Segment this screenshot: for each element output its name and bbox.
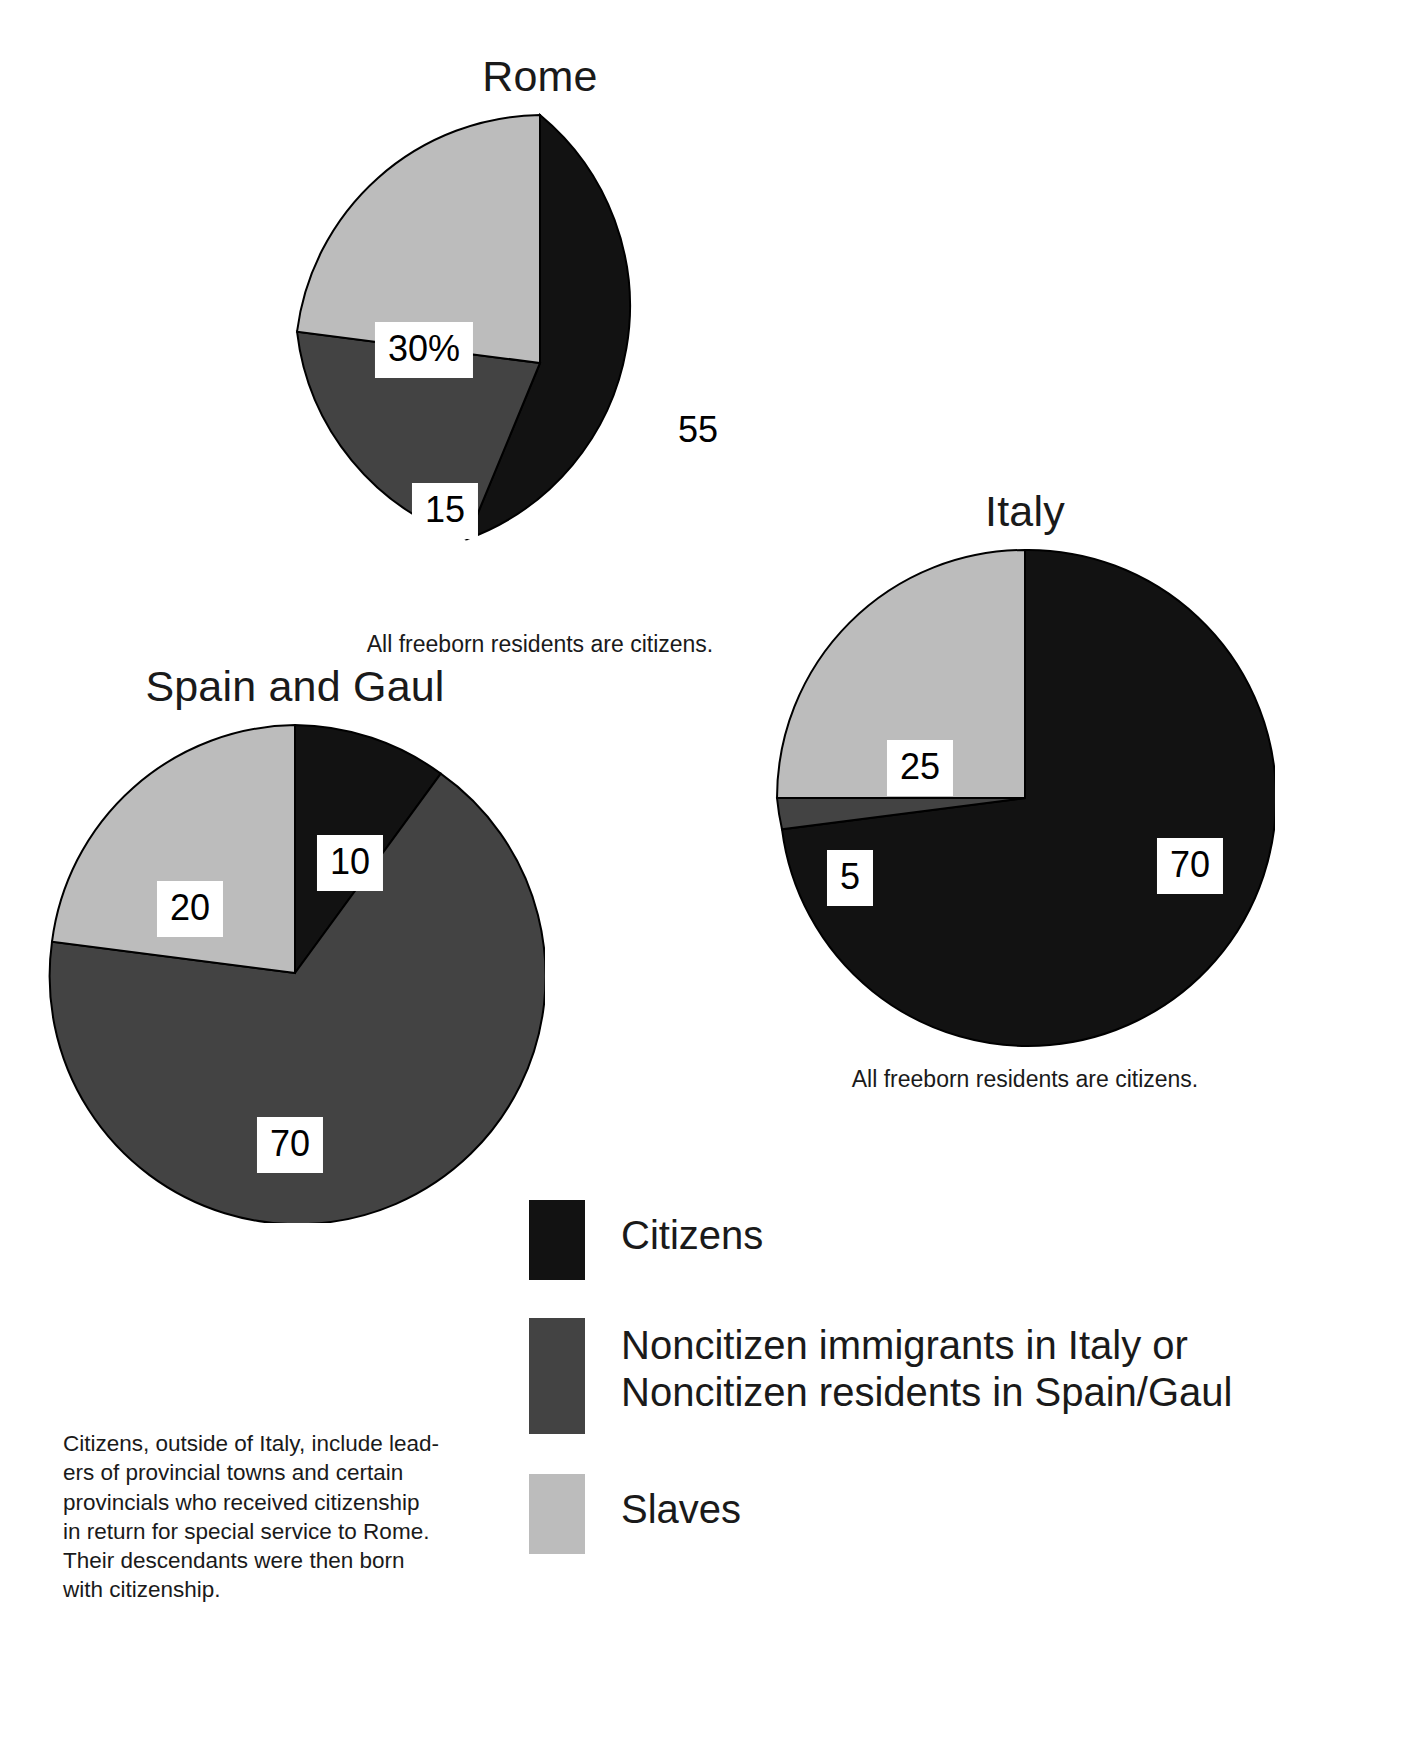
footnote-line-5: Their descendants were then born — [63, 1546, 459, 1575]
pie-title-spain-and-gaul: Spain and Gaul — [45, 665, 545, 708]
footnote-line-4: in return for special service to Rome. — [63, 1517, 459, 1546]
legend-swatch-slaves — [529, 1474, 585, 1554]
pie-svg-rome — [290, 113, 790, 613]
legend-swatch-noncitizen — [529, 1318, 585, 1434]
legend-label-slaves: Slaves — [621, 1486, 741, 1533]
slice-label-italy-citizens: 70 — [1157, 838, 1223, 894]
legend: Citizens Noncitizen immigrants in Italy … — [529, 1200, 1389, 1540]
legend-label-citizens-line1: Citizens — [621, 1213, 763, 1257]
legend-label-slaves-line1: Slaves — [621, 1487, 741, 1531]
slice-label-spain-citizens: 10 — [317, 835, 383, 891]
legend-label-noncitizen-line2: Noncitizen residents in Spain/Gaul — [621, 1369, 1232, 1416]
figure-canvas: Rome 55 15 30% All freeborn residents ar… — [0, 0, 1421, 1764]
legend-item-citizens[interactable]: Citizens — [529, 1200, 763, 1280]
slice-label-rome-citizens: 55 — [665, 403, 731, 459]
pie-title-italy: Italy — [775, 490, 1275, 533]
legend-label-noncitizen-line1: Noncitizen immigrants in Italy or — [621, 1323, 1188, 1367]
pie-graphic-rome: 55 15 30% — [290, 113, 790, 613]
slice-label-spain-noncitizen: 70 — [257, 1117, 323, 1173]
legend-label-noncitizen: Noncitizen immigrants in Italy or Noncit… — [621, 1322, 1232, 1416]
pie-note-italy: All freeborn residents are citizens. — [775, 1068, 1275, 1091]
slice-label-italy-noncitizen: 5 — [827, 850, 873, 906]
pie-svg-italy — [775, 548, 1275, 1048]
slice-label-spain-slaves: 20 — [157, 881, 223, 937]
pie-chart-italy: Italy 70 5 25 All freeborn residents are… — [775, 490, 1275, 1130]
pie-graphic-italy: 70 5 25 — [775, 548, 1275, 1048]
pie-title-rome: Rome — [290, 55, 790, 98]
legend-label-citizens: Citizens — [621, 1212, 763, 1259]
slice-label-rome-noncitizen: 15 — [412, 483, 478, 539]
pie-chart-rome: Rome 55 15 30% All freeborn residents ar… — [290, 55, 790, 695]
legend-swatch-citizens — [529, 1200, 585, 1280]
slice-label-italy-slaves: 25 — [887, 740, 953, 796]
footnote-line-3: provincials who received citizenship — [63, 1488, 459, 1517]
footnote-line-1: Citizens, outside of Italy, include lead… — [63, 1429, 459, 1458]
pie-graphic-spain-and-gaul: 10 70 20 — [45, 723, 545, 1223]
legend-item-slaves[interactable]: Slaves — [529, 1474, 741, 1554]
footnote-line-2: ers of provincial towns and certain — [63, 1458, 459, 1487]
slice-label-rome-slaves: 30% — [375, 322, 473, 378]
pie-chart-spain-and-gaul: Spain and Gaul 10 70 20 — [45, 665, 545, 1285]
pie-note-rome: All freeborn residents are citizens. — [290, 633, 790, 656]
footnote-citizens-outside-italy: Citizens, outside of Italy, include lead… — [63, 1429, 459, 1605]
legend-item-noncitizen[interactable]: Noncitizen immigrants in Italy or Noncit… — [529, 1318, 1232, 1434]
footnote-line-6: with citizenship. — [63, 1575, 459, 1604]
pie-slices-italy — [777, 550, 1275, 1046]
